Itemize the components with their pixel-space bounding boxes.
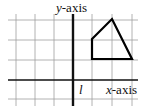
y-axis-label: y-axis (54, 0, 87, 15)
x-axis-label: x-axis (105, 82, 137, 97)
coordinate-diagram: y-axis l x-axis (0, 0, 146, 108)
line-l-label: l (79, 82, 83, 97)
